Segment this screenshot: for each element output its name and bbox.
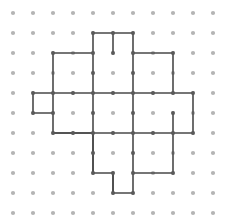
polygon-vertex-node [131,131,135,135]
grid-dot [71,71,75,75]
polygon-vertex-node [131,51,135,55]
grid-dot [211,131,215,135]
polygon-vertex-node [151,91,155,95]
polygon-vertex-node [91,151,95,155]
grid-dot [51,11,55,15]
polygon-vertex-node [171,171,175,175]
grid-dot [71,11,75,15]
grid-dot [51,211,55,215]
polygon-vertex-node [71,131,75,135]
grid-dot [11,171,15,175]
grid-dot [151,211,155,215]
grid-dot [171,31,175,35]
grid-dot [71,171,75,175]
grid-dot [51,191,55,195]
grid-dot [31,31,35,35]
polygon-vertex-node [111,91,115,95]
grid-dot [211,151,215,155]
grid-dot [191,71,195,75]
grid-dot [211,171,215,175]
grid-dot [11,131,15,135]
grid-dot [211,211,215,215]
polygon-vertex-node [111,51,115,55]
grid-dot [11,51,15,55]
polygon-vertex-node [191,131,195,135]
grid-dot [11,111,15,115]
polygon-vertex-node [31,91,35,95]
grid-dot [211,91,215,95]
grid-dot [151,71,155,75]
polygon-vertex-node [171,51,175,55]
grid-dot [11,31,15,35]
grid-dot [111,11,115,15]
polygon-vertex-node [91,171,95,175]
polygon-vertex-node [91,71,95,75]
grid-dot [31,171,35,175]
grid-dot [191,31,195,35]
grid-dot [11,191,15,195]
grid-dot [191,51,195,55]
grid-dot [211,11,215,15]
polygon-vertex-node [91,91,95,95]
grid-dot [91,11,95,15]
grid-dot [211,111,215,115]
grid-dot [31,11,35,15]
polygon-vertex-node [91,31,95,35]
grid-dot [71,111,75,115]
grid-dot [71,31,75,35]
polygon-vertex-node [131,171,135,175]
grid-dot [111,151,115,155]
polygon-vertex-node [171,111,175,115]
grid-dot [71,211,75,215]
polygon-vertex-node [171,91,175,95]
grid-dot [31,151,35,155]
grid-dot [151,31,155,35]
polygon-vertex-node [31,111,35,115]
grid-dot [151,191,155,195]
grid-dot [151,111,155,115]
grid-dot [31,191,35,195]
polygon-vertex-node [91,51,95,55]
grid-dot [71,191,75,195]
polygon-vertex-node [111,191,115,195]
grid-dot [111,71,115,75]
grid-dot [31,211,35,215]
polygon-vertex-node [171,131,175,135]
grid-dot [31,71,35,75]
grid-dot [91,191,95,195]
polygon-vertex-node [111,171,115,175]
grid-dot [191,11,195,15]
grid-dot [111,211,115,215]
polygon-vertex-node [131,71,135,75]
grid-dot [171,191,175,195]
polygon-vertex-node [191,91,195,95]
grid-dot [11,211,15,215]
grid-dot [51,171,55,175]
grid-dot [211,51,215,55]
polygon-vertex-node [51,111,55,115]
grid-dot [71,151,75,155]
grid-dot [31,131,35,135]
polygon-vertex-node [131,191,135,195]
grid-dot [171,211,175,215]
polygon-vertex-node [151,131,155,135]
grid-dot [191,151,195,155]
grid-dot [151,151,155,155]
polygon-vertex-node [131,91,135,95]
grid-dot [131,211,135,215]
grid-dot [11,71,15,75]
dot-grid-figure-canvas [0,0,230,218]
grid-dot [191,191,195,195]
polygon-vertex-node [131,31,135,35]
polygon-vertex-node [91,111,95,115]
grid-dot [111,111,115,115]
grid-dot [11,91,15,95]
grid-dot [151,11,155,15]
polygon-vertex-node [131,111,135,115]
grid-dot [191,171,195,175]
grid-dot [191,211,195,215]
polygon-vertex-node [51,51,55,55]
grid-dot [11,151,15,155]
grid-dot [31,51,35,55]
polygon-vertex-node [91,131,95,135]
